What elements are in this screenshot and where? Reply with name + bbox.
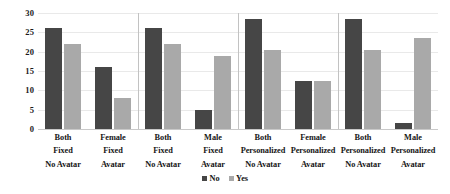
x-label-line-3: No Avatar — [238, 158, 288, 171]
x-label-line-1: Both — [238, 131, 288, 144]
bar-group-both-fixed-no-avatar — [138, 13, 188, 129]
y-tick-0: 0 — [30, 124, 34, 134]
bar-no[interactable] — [295, 81, 312, 129]
bar-yes[interactable] — [164, 44, 181, 129]
legend-item-no[interactable]: No — [202, 174, 220, 183]
bar-no[interactable] — [195, 110, 212, 129]
bar-no[interactable] — [45, 28, 62, 129]
bar-group-female-fixed-avatar — [88, 13, 138, 129]
x-label-line-1: Both — [138, 131, 188, 144]
x-label-both-personalized-no-avatar: Both Personalized No Avatar — [338, 131, 388, 171]
panel-container — [38, 13, 438, 129]
y-tick-15: 15 — [25, 66, 34, 76]
x-panel-personalized-female: Both Personalized No Avatar Female Perso… — [238, 131, 338, 171]
panel-fixed-male — [138, 13, 238, 129]
x-label-female-fixed-avatar: Female Fixed Avatar — [88, 131, 138, 171]
panel-fixed-female — [38, 13, 138, 129]
y-axis-tick-labels: 30 25 20 15 10 5 0 — [0, 13, 34, 129]
y-tick-30: 30 — [25, 8, 34, 18]
x-label-line-2: Fixed — [188, 144, 238, 157]
x-label-male-personalized-avatar: Male Personalized Avatar — [388, 131, 438, 171]
x-label-line-2: Fixed — [88, 144, 138, 157]
x-label-both-fixed-no-avatar: Both Fixed No Avatar — [138, 131, 188, 171]
bar-group-male-fixed-avatar — [188, 13, 238, 129]
legend-label: No — [209, 174, 219, 183]
x-label-line-2: Fixed — [138, 144, 188, 157]
y-tick-10: 10 — [25, 85, 34, 95]
y-tick-20: 20 — [25, 47, 34, 57]
x-label-male-fixed-avatar: Male Fixed Avatar — [188, 131, 238, 171]
x-label-line-3: Avatar — [388, 158, 438, 171]
x-panel-fixed-male: Both Fixed No Avatar Male Fixed Avatar — [138, 131, 238, 171]
x-label-line-3: Avatar — [188, 158, 238, 171]
grouped-bar-chart: 30 25 20 15 10 5 0 — [0, 0, 450, 194]
bar-yes[interactable] — [214, 56, 231, 129]
bar-no[interactable] — [145, 28, 162, 129]
panel-personalized-male — [338, 13, 438, 129]
x-panel-fixed-female: Both Fixed No Avatar Female Fixed Avatar — [38, 131, 138, 171]
panel-personalized-female — [238, 13, 338, 129]
bar-group-both-personalized-no-avatar — [238, 13, 288, 129]
x-label-line-2: Personalized — [388, 144, 438, 157]
x-label-line-3: No Avatar — [38, 158, 88, 171]
bar-yes[interactable] — [264, 50, 281, 129]
x-label-line-1: Male — [388, 131, 438, 144]
bar-no[interactable] — [95, 67, 112, 129]
x-label-line-2: Personalized — [338, 144, 388, 157]
bar-yes[interactable] — [314, 81, 331, 129]
x-label-line-2: Personalized — [238, 144, 288, 157]
chart-legend: No Yes — [0, 174, 450, 183]
x-label-line-1: Female — [88, 131, 138, 144]
x-label-both-personalized-no-avatar: Both Personalized No Avatar — [238, 131, 288, 171]
bar-no[interactable] — [345, 19, 362, 129]
x-label-line-3: Avatar — [288, 158, 338, 171]
bar-group-both-personalized-no-avatar — [338, 13, 388, 129]
x-label-line-2: Fixed — [38, 144, 88, 157]
axis-baseline — [38, 129, 438, 130]
y-tick-5: 5 — [30, 105, 34, 115]
bar-group-male-personalized-avatar — [388, 13, 438, 129]
x-label-line-1: Both — [338, 131, 388, 144]
bar-yes[interactable] — [64, 44, 81, 129]
bar-yes[interactable] — [114, 98, 131, 129]
x-label-line-3: No Avatar — [338, 158, 388, 171]
x-label-line-3: Avatar — [88, 158, 138, 171]
x-label-line-1: Male — [188, 131, 238, 144]
legend-swatch-icon — [202, 176, 207, 181]
bar-no[interactable] — [395, 123, 412, 129]
legend-label: Yes — [236, 174, 248, 183]
x-label-line-2: Personalized — [288, 144, 338, 157]
y-tick-25: 25 — [25, 27, 34, 37]
x-label-line-1: Female — [288, 131, 338, 144]
x-label-line-3: No Avatar — [138, 158, 188, 171]
bar-group-female-personalized-avatar — [288, 13, 338, 129]
bar-yes[interactable] — [364, 50, 381, 129]
x-label-line-1: Both — [38, 131, 88, 144]
bar-no[interactable] — [245, 19, 262, 129]
x-label-both-fixed-no-avatar: Both Fixed No Avatar — [38, 131, 88, 171]
legend-item-yes[interactable]: Yes — [229, 174, 248, 183]
bar-group-both-fixed-no-avatar — [38, 13, 88, 129]
plot-area — [38, 13, 438, 129]
x-label-female-personalized-avatar: Female Personalized Avatar — [288, 131, 338, 171]
x-axis-labels: Both Fixed No Avatar Female Fixed Avatar… — [38, 131, 438, 171]
x-panel-personalized-male: Both Personalized No Avatar Male Persona… — [338, 131, 438, 171]
legend-swatch-icon — [229, 176, 234, 181]
bar-yes[interactable] — [414, 38, 431, 129]
